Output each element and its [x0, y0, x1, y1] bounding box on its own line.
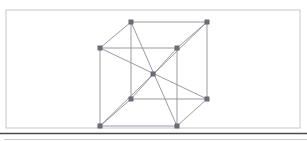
figure-canvas [0, 0, 307, 141]
vertex-front-top-left [98, 46, 102, 50]
vertex-back-top-left [129, 20, 133, 24]
cube-diagram-svg [0, 0, 307, 141]
vertex-back-bottom-right [205, 97, 209, 101]
vertex-front-bottom-right [175, 124, 179, 128]
vertex-body-center [151, 72, 155, 76]
vertex-back-top-right [205, 20, 209, 24]
vertex-front-top-right [175, 46, 179, 50]
figure-background [0, 0, 307, 141]
vertex-back-bottom-left [129, 97, 133, 101]
vertex-front-bottom-left [98, 124, 102, 128]
